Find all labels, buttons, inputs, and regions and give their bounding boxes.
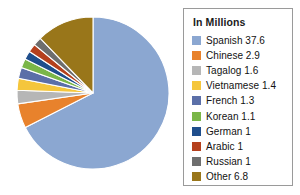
legend-color-swatch-icon	[192, 36, 201, 45]
legend-item: Arabic 1	[192, 139, 292, 154]
legend-box: In Millions Spanish 37.6Chinese 2.9Tagal…	[183, 8, 293, 186]
legend-list: Spanish 37.6Chinese 2.9Tagalog 1.6Vietna…	[192, 33, 292, 184]
legend-item: Other 6.8	[192, 169, 292, 184]
pie-slices-group	[17, 17, 169, 169]
legend-item: Vietnamese 1.4	[192, 78, 292, 93]
legend-color-swatch-icon	[192, 112, 201, 121]
legend-item: German 1	[192, 124, 292, 139]
legend-color-swatch-icon	[192, 96, 201, 105]
legend-item-label: Other 6.8	[206, 171, 248, 182]
legend-color-swatch-icon	[192, 157, 201, 166]
legend-title: In Millions	[193, 16, 292, 28]
legend-color-swatch-icon	[192, 172, 201, 181]
legend-item: Tagalog 1.6	[192, 63, 292, 78]
legend-item-label: Spanish 37.6	[206, 35, 265, 46]
legend-color-swatch-icon	[192, 66, 201, 75]
legend-item: Russian 1	[192, 154, 292, 169]
legend-color-swatch-icon	[192, 142, 201, 151]
legend-item-label: German 1	[206, 126, 251, 137]
legend-color-swatch-icon	[192, 127, 201, 136]
legend-item: French 1.3	[192, 93, 292, 108]
legend-item-label: Russian 1	[206, 156, 251, 167]
pie-svg	[16, 11, 170, 177]
pie-chart-graphic	[16, 11, 170, 177]
legend-item-label: Tagalog 1.6	[206, 65, 258, 76]
legend-item: Chinese 2.9	[192, 48, 292, 63]
legend-item-label: Arabic 1	[206, 141, 243, 152]
legend-item: Korean 1.1	[192, 108, 292, 123]
pie-chart-figure: In Millions Spanish 37.6Chinese 2.9Tagal…	[0, 0, 300, 195]
legend-item: Spanish 37.6	[192, 33, 292, 48]
legend-item-label: Korean 1.1	[206, 111, 255, 122]
legend-color-swatch-icon	[192, 81, 201, 90]
legend-color-swatch-icon	[192, 51, 201, 60]
legend-item-label: French 1.3	[206, 95, 254, 106]
legend-item-label: Vietnamese 1.4	[206, 80, 276, 91]
legend-item-label: Chinese 2.9	[206, 50, 260, 61]
